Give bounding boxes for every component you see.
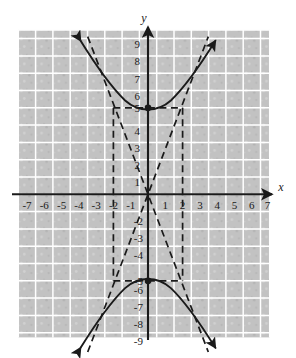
y-tick-2: 2 xyxy=(135,159,141,171)
x-tick-2: 2 xyxy=(180,199,186,211)
y-tick-8: 8 xyxy=(135,55,141,67)
y-tick--4: -4 xyxy=(134,249,144,261)
y-tick-3: 3 xyxy=(135,142,141,154)
x-tick--2: -2 xyxy=(109,199,118,211)
x-tick--3: -3 xyxy=(92,199,102,211)
vertex-lower xyxy=(145,277,152,284)
grid-panel xyxy=(18,30,269,338)
y-tick--2: -2 xyxy=(134,215,143,227)
y-tick--3: -3 xyxy=(134,232,144,244)
x-tick-1: 1 xyxy=(163,199,169,211)
plot-canvas: y x -7 -6 -5 -4 -3 -2 -1 1 2 3 4 5 6 7 9… xyxy=(0,0,296,358)
x-tick--6: -6 xyxy=(40,199,50,211)
x-axis-label: x xyxy=(277,180,284,194)
x-tick--4: -4 xyxy=(74,199,84,211)
y-tick-6: 6 xyxy=(135,90,141,102)
x-tick-6: 6 xyxy=(249,199,255,211)
y-tick--8: -8 xyxy=(134,318,144,330)
y-tick-4: 4 xyxy=(135,125,141,137)
y-tick-7: 7 xyxy=(135,73,141,85)
y-tick-9: 9 xyxy=(135,38,141,50)
y-tick--6: -6 xyxy=(134,284,144,296)
x-tick--1: -1 xyxy=(126,199,135,211)
x-tick-7: 7 xyxy=(265,199,271,211)
x-tick-4: 4 xyxy=(214,199,220,211)
y-tick--9: -9 xyxy=(134,335,144,347)
x-tick-5: 5 xyxy=(232,199,238,211)
y-axis-label: y xyxy=(140,11,147,25)
y-tick-1: 1 xyxy=(135,176,141,188)
x-tick-3: 3 xyxy=(197,199,203,211)
y-tick-5: 5 xyxy=(135,102,141,114)
x-tick--7: -7 xyxy=(22,199,32,211)
vertex-upper xyxy=(145,104,152,111)
y-tick--7: -7 xyxy=(134,301,144,313)
hyperbola-graph-figure: y x -7 -6 -5 -4 -3 -2 -1 1 2 3 4 5 6 7 9… xyxy=(0,0,296,358)
x-tick--5: -5 xyxy=(57,199,67,211)
